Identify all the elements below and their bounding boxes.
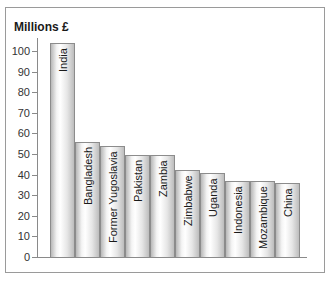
y-axis-title: Millions £ [14, 20, 69, 34]
bar-label: China [282, 188, 294, 217]
bar-label: Former Yugoslavia [107, 151, 119, 243]
bar-label: Indonesia [232, 186, 244, 234]
y-tick-label: 90 [6, 66, 30, 78]
bar-china: China [275, 183, 300, 257]
y-tick-label: 50 [6, 148, 30, 160]
bar-label: Uganda [207, 178, 219, 217]
y-tick-mark [32, 175, 37, 176]
y-tick-label: 30 [6, 189, 30, 201]
bar-mozambique: Mozambique [250, 181, 275, 257]
x-axis-line [37, 257, 307, 258]
bar-label: India [57, 48, 69, 72]
y-tick-mark [32, 72, 37, 73]
y-tick-mark [32, 257, 37, 258]
y-tick-label: 10 [6, 230, 30, 242]
y-tick-mark [32, 51, 37, 52]
y-tick-mark [32, 113, 37, 114]
bar-uganda: Uganda [200, 173, 225, 257]
bar-india: India [50, 43, 75, 257]
bar-label: Pakistan [132, 160, 144, 202]
bar-label: Zimbabwe [182, 175, 194, 226]
y-tick-mark [32, 236, 37, 237]
bar-former-yugoslavia: Former Yugoslavia [100, 146, 125, 257]
bar-label: Bangladesh [82, 147, 94, 205]
bar-zimbabwe: Zimbabwe [175, 170, 200, 257]
bar-label: Mozambique [257, 186, 269, 249]
bar-bangladesh: Bangladesh [75, 142, 100, 257]
y-tick-mark [32, 133, 37, 134]
y-tick-mark [32, 92, 37, 93]
y-tick-label: 0 [6, 251, 30, 263]
y-tick-label: 20 [6, 210, 30, 222]
y-tick-label: 60 [6, 127, 30, 139]
y-tick-label: 40 [6, 169, 30, 181]
y-tick-mark [32, 154, 37, 155]
bar-pakistan: Pakistan [125, 155, 150, 257]
y-axis-line [37, 38, 38, 258]
y-tick-mark [32, 195, 37, 196]
bar-zambia: Zambia [150, 155, 175, 257]
y-tick-label: 100 [6, 45, 30, 57]
y-tick-label: 70 [6, 107, 30, 119]
y-tick-mark [32, 216, 37, 217]
bar-label: Zambia [157, 160, 169, 197]
bar-indonesia: Indonesia [225, 181, 250, 257]
y-tick-label: 80 [6, 86, 30, 98]
